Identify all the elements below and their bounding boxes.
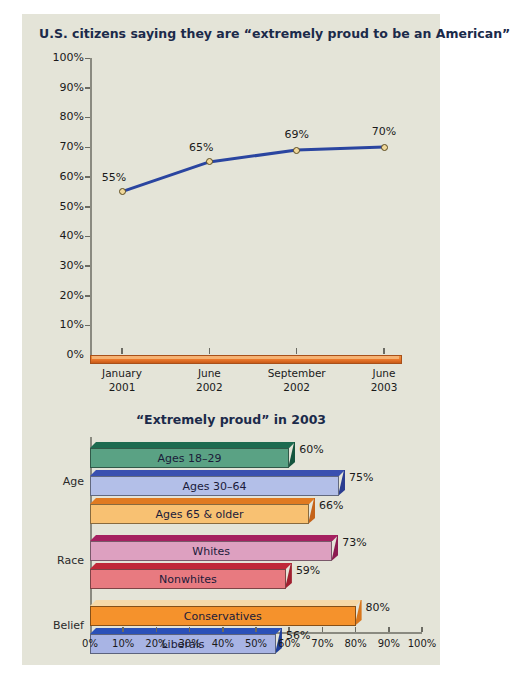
line-chart-y-label: 60% bbox=[44, 170, 84, 183]
line-chart-y-label: 50% bbox=[44, 200, 84, 213]
line-chart-y-label: 90% bbox=[44, 81, 84, 94]
line-chart-point-label: 69% bbox=[279, 128, 315, 141]
line-chart-data-point bbox=[293, 147, 300, 154]
bar-chart-x-tick bbox=[355, 627, 357, 632]
line-chart-x-tick bbox=[209, 348, 211, 354]
line-chart-y-label: 30% bbox=[44, 259, 84, 272]
line-chart-x-tick bbox=[296, 348, 298, 354]
bar-value-label: 60% bbox=[299, 443, 323, 456]
bar-value-label: 59% bbox=[296, 564, 320, 577]
line-chart-data-point bbox=[206, 158, 213, 165]
bar-chart-x-tick bbox=[255, 627, 257, 632]
line-chart-y-label: 0% bbox=[44, 348, 84, 361]
line-chart-baseline-highlight bbox=[92, 356, 399, 359]
bar-group-label: Race bbox=[32, 554, 84, 567]
bar-value-label: 73% bbox=[342, 536, 366, 549]
bar-group-label: Age bbox=[32, 475, 84, 488]
line-chart-x-label-year: 2003 bbox=[339, 381, 429, 393]
bar-label: Nonwhites bbox=[90, 573, 286, 586]
line-chart-x-label-month: June bbox=[339, 367, 429, 379]
bar-chart-bar[interactable]: Ages 65 & older bbox=[90, 498, 315, 524]
line-chart-y-label: 40% bbox=[44, 229, 84, 242]
line-chart-x-tick bbox=[121, 348, 123, 354]
bar-chart-x-tick bbox=[388, 627, 390, 632]
bar-chart-x-label: 100% bbox=[402, 638, 442, 649]
line-chart-x-label: June2002 bbox=[164, 367, 254, 393]
bar-chart-bar[interactable]: Nonwhites bbox=[90, 563, 292, 589]
line-chart-y-label: 80% bbox=[44, 110, 84, 123]
bar-label: Whites bbox=[90, 545, 332, 558]
line-chart-y-label: 20% bbox=[44, 289, 84, 302]
line-chart-plot bbox=[22, 14, 440, 404]
bar-label: Conservatives bbox=[90, 610, 356, 623]
line-chart-x-tick bbox=[383, 348, 385, 354]
bar-value-label: 80% bbox=[366, 601, 390, 614]
line-chart-x-label-year: 2001 bbox=[77, 381, 167, 393]
line-chart-title: U.S. citizens saying they are “extremely… bbox=[39, 26, 510, 41]
bar-value-label: 56% bbox=[286, 629, 310, 642]
line-chart-y-axis bbox=[90, 58, 92, 358]
line-chart-x-label-year: 2002 bbox=[252, 381, 342, 393]
bar-chart-x-tick bbox=[322, 627, 324, 632]
bar-group-label: Belief bbox=[32, 619, 84, 632]
line-chart-point-label: 70% bbox=[366, 125, 402, 138]
line-chart-data-point bbox=[381, 144, 388, 151]
bar-chart-bar[interactable]: Ages 30–64 bbox=[90, 470, 345, 496]
bar-label: Ages 30–64 bbox=[90, 480, 339, 493]
line-series-path bbox=[122, 147, 384, 192]
bar-value-label: 66% bbox=[319, 499, 343, 512]
line-chart-point-label: 65% bbox=[183, 141, 219, 154]
line-chart-x-label-year: 2002 bbox=[164, 381, 254, 393]
line-chart-x-label-month: January bbox=[77, 367, 167, 379]
line-chart-data-point bbox=[119, 188, 126, 195]
bar-chart: “Extremely proud” in 2003 Ages 18–29Ages… bbox=[22, 404, 440, 665]
line-chart-x-label: September2002 bbox=[252, 367, 342, 393]
bar-label: Ages 65 & older bbox=[90, 508, 309, 521]
bar-value-label: 75% bbox=[349, 471, 373, 484]
bar-chart-x-tick bbox=[156, 627, 158, 632]
bar-chart-x-tick bbox=[421, 627, 423, 632]
bar-chart-x-tick bbox=[122, 627, 124, 632]
line-chart-x-label-month: September bbox=[252, 367, 342, 379]
bar-label: Ages 18–29 bbox=[90, 452, 289, 465]
line-chart-y-label: 100% bbox=[44, 51, 84, 64]
line-chart-y-label: 10% bbox=[44, 318, 84, 331]
line-chart-point-label: 55% bbox=[96, 171, 132, 184]
bar-chart-bar[interactable]: Conservatives bbox=[90, 600, 362, 626]
line-chart-x-label: June2003 bbox=[339, 367, 429, 393]
line-chart: U.S. citizens saying they are “extremely… bbox=[22, 14, 440, 404]
bar-chart-title: “Extremely proud” in 2003 bbox=[22, 412, 440, 427]
bar-chart-bar[interactable]: Ages 18–29 bbox=[90, 442, 295, 468]
line-chart-x-label-month: June bbox=[164, 367, 254, 379]
bar-chart-bar[interactable]: Whites bbox=[90, 535, 338, 561]
bar-chart-x-tick bbox=[189, 627, 191, 632]
line-chart-y-label: 70% bbox=[44, 140, 84, 153]
chart-panel: U.S. citizens saying they are “extremely… bbox=[22, 14, 440, 665]
bar-chart-x-tick bbox=[222, 627, 224, 632]
line-chart-x-label: January2001 bbox=[77, 367, 167, 393]
